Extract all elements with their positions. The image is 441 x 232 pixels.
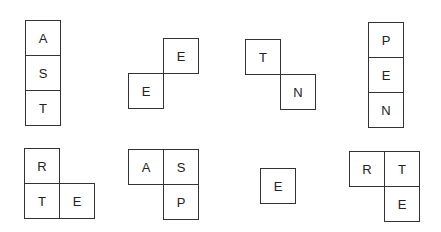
letter-tile-t: T <box>245 39 281 75</box>
letter-tile-e: E <box>128 73 164 109</box>
letter-tile-t: T <box>384 151 420 187</box>
letter-tile-n: N <box>280 74 316 110</box>
letter-tile-r: R <box>349 151 385 187</box>
letter-tile-p: P <box>163 184 199 220</box>
letter-tile-t: T <box>24 183 60 219</box>
letter-tile-t: T <box>25 90 61 126</box>
letter-tile-n: N <box>368 92 404 128</box>
letter-tile-s: S <box>25 55 61 91</box>
letter-tile-r: R <box>24 148 60 184</box>
letter-tile-p: P <box>368 22 404 58</box>
letter-tile-e: E <box>163 38 199 74</box>
letter-tile-a: A <box>128 149 164 185</box>
letter-tile-a: A <box>25 20 61 56</box>
letter-tile-e: E <box>384 186 420 222</box>
letter-tile-e: E <box>368 57 404 93</box>
letter-tile-e: E <box>260 168 296 204</box>
letter-tile-s: S <box>163 149 199 185</box>
letter-tile-e: E <box>59 183 95 219</box>
